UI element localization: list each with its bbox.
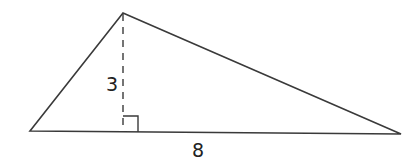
right-angle-mark [123, 116, 138, 132]
height-label: 3 [106, 73, 118, 95]
triangle-shape [30, 13, 401, 134]
base-label: 8 [192, 139, 204, 160]
triangle-diagram: 3 8 [0, 0, 412, 160]
